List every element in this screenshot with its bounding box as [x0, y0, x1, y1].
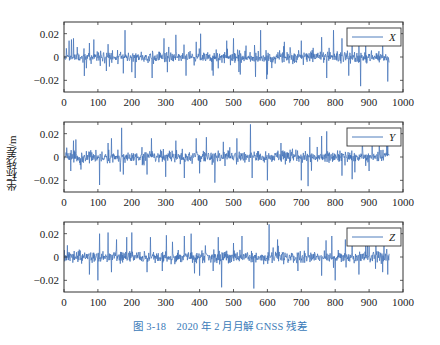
- x-tick-label: 700: [293, 96, 310, 108]
- legend-z: Z: [347, 228, 401, 246]
- x-tick-label: 200: [124, 296, 141, 308]
- x-tick-label: 600: [259, 96, 276, 108]
- subplot-z: 01002003004005006007008009001000−0.0200.…: [34, 222, 415, 308]
- x-tick-label: 800: [327, 296, 344, 308]
- legend-label: Z: [389, 231, 396, 243]
- x-tick-label: 1000: [392, 296, 415, 308]
- x-tick-label: 1000: [392, 96, 415, 108]
- x-tick-label: 100: [90, 196, 107, 208]
- residual-line: [64, 124, 389, 186]
- x-tick-label: 200: [124, 196, 141, 208]
- x-tick-label: 600: [259, 196, 276, 208]
- y-tick-label: 0: [54, 151, 60, 163]
- y-tick-label: −0.02: [34, 74, 59, 86]
- subplot-x: 01002003004005006007008009001000−0.0200.…: [34, 22, 415, 108]
- x-tick-label: 700: [293, 296, 310, 308]
- y-tick-label: 0.02: [40, 228, 59, 240]
- y-tick-label: 0: [54, 251, 60, 263]
- x-tick-label: 900: [361, 296, 378, 308]
- x-tick-label: 700: [293, 196, 310, 208]
- x-tick-label: 400: [191, 296, 208, 308]
- y-axis-label: 坐标残差/m: [4, 118, 20, 208]
- figure-caption: 图 3-18 2020 年 2 月月解 GNSS 残差: [0, 318, 440, 333]
- x-tick-label: 500: [225, 196, 242, 208]
- legend-label: X: [388, 31, 397, 43]
- x-tick-label: 1000: [392, 196, 415, 208]
- legend-y: Y: [347, 128, 401, 146]
- x-tick-label: 0: [61, 96, 67, 108]
- y-tick-label: 0: [54, 51, 60, 63]
- residual-line: [64, 30, 389, 86]
- y-tick-label: 0.02: [40, 128, 59, 140]
- x-tick-label: 300: [157, 96, 174, 108]
- x-tick-label: 800: [327, 96, 344, 108]
- y-tick-label: −0.02: [34, 174, 59, 186]
- subplot-y: 01002003004005006007008009001000−0.0200.…: [34, 122, 415, 208]
- x-tick-label: 300: [157, 296, 174, 308]
- x-tick-label: 200: [124, 96, 141, 108]
- x-tick-label: 100: [90, 96, 107, 108]
- x-tick-label: 400: [191, 96, 208, 108]
- x-tick-label: 900: [361, 196, 378, 208]
- x-tick-label: 900: [361, 96, 378, 108]
- x-tick-label: 500: [225, 296, 242, 308]
- x-tick-label: 600: [259, 296, 276, 308]
- legend-x: X: [347, 28, 401, 46]
- residual-figure: 01002003004005006007008009001000−0.0200.…: [0, 0, 440, 345]
- x-tick-label: 0: [61, 196, 67, 208]
- y-tick-label: 0.02: [40, 28, 59, 40]
- x-tick-label: 400: [191, 196, 208, 208]
- y-tick-label: −0.02: [34, 274, 59, 286]
- x-tick-label: 500: [225, 96, 242, 108]
- x-tick-label: 100: [90, 296, 107, 308]
- x-tick-label: 800: [327, 196, 344, 208]
- residual-line: [64, 224, 389, 288]
- x-tick-label: 300: [157, 196, 174, 208]
- x-tick-label: 0: [61, 296, 67, 308]
